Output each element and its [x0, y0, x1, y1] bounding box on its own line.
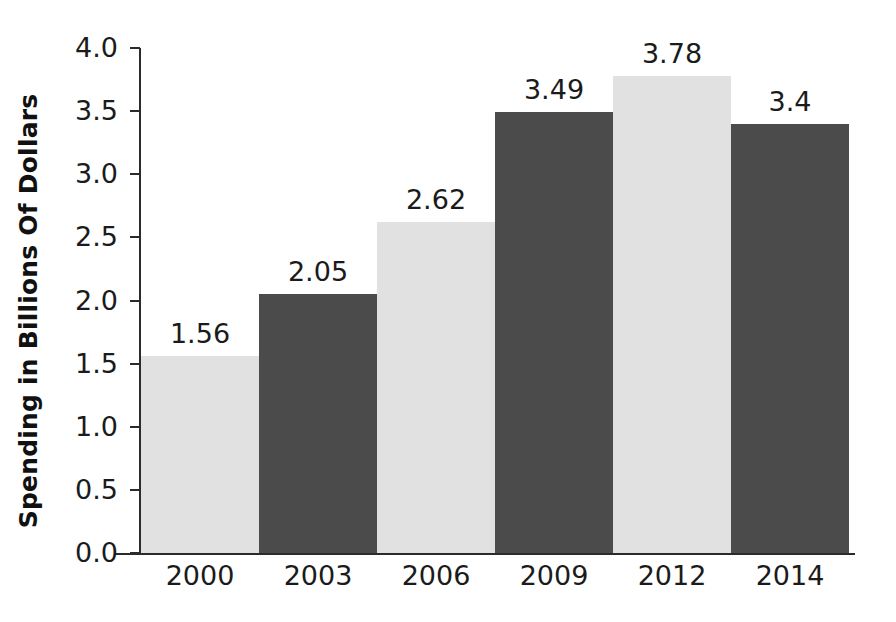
- bar-value-label: 2.05: [288, 258, 348, 285]
- y-tick-mark: [130, 110, 140, 112]
- y-tick-label: 0.0: [44, 539, 118, 566]
- x-axis-label: 2009: [495, 562, 613, 589]
- y-tick-label: 1.5: [44, 350, 118, 377]
- y-tick-mark: [130, 47, 140, 49]
- bar-value-label: 2.62: [406, 186, 466, 213]
- y-tick-label: 4.0: [44, 34, 118, 61]
- bar-value-label: 3.78: [642, 40, 702, 67]
- bar[interactable]: [731, 124, 849, 553]
- plot-area: 1.562.052.623.493.783.4: [141, 48, 849, 553]
- bar[interactable]: [377, 222, 495, 553]
- y-tick-mark: [130, 236, 140, 238]
- bar-value-label: 3.4: [769, 88, 812, 115]
- y-tick-label: 2.5: [44, 223, 118, 250]
- y-tick-mark: [130, 426, 140, 428]
- y-tick-label: 1.0: [44, 413, 118, 440]
- bar-slot: 1.56: [141, 48, 259, 553]
- y-tick-label: 3.5: [44, 97, 118, 124]
- y-tick-label: 2.0: [44, 287, 118, 314]
- bar[interactable]: [259, 294, 377, 553]
- y-tick-mark: [130, 489, 140, 491]
- bar-slot: 2.05: [259, 48, 377, 553]
- y-tick-mark: [130, 173, 140, 175]
- y-tick-label: 3.0: [44, 160, 118, 187]
- y-tick-mark: [130, 363, 140, 365]
- bar[interactable]: [141, 356, 259, 553]
- x-axis-label: 2006: [377, 562, 495, 589]
- bar-value-label: 1.56: [170, 320, 230, 347]
- x-axis-label: 2014: [731, 562, 849, 589]
- bar-value-label: 3.49: [524, 76, 584, 103]
- bar-chart: Spending in Billions Of Dollars 4.03.53.…: [0, 0, 896, 622]
- bar[interactable]: [613, 76, 731, 553]
- bar-slot: 3.49: [495, 48, 613, 553]
- y-tick-mark: [130, 300, 140, 302]
- bar-slot: 2.62: [377, 48, 495, 553]
- x-axis-line: [115, 553, 855, 555]
- bar[interactable]: [495, 112, 613, 553]
- y-tick-mark: [130, 552, 140, 554]
- y-tick-label: 0.5: [44, 476, 118, 503]
- bar-slot: 3.4: [731, 48, 849, 553]
- x-axis-label: 2012: [613, 562, 731, 589]
- x-axis-label: 2000: [141, 562, 259, 589]
- bar-slot: 3.78: [613, 48, 731, 553]
- x-axis-label: 2003: [259, 562, 377, 589]
